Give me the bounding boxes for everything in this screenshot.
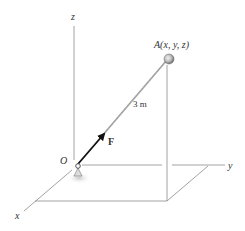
origin-label: O (60, 155, 67, 166)
force-arrow (78, 134, 104, 164)
x-axis-label: x (14, 210, 20, 221)
z-axis-label: z (70, 11, 75, 22)
floor-edge-right (167, 166, 208, 201)
ball-joint-A (164, 54, 174, 64)
length-label: 3 m (133, 99, 147, 109)
pin-support (74, 168, 82, 176)
diagram-canvas: z y x F A(x, y, z) 3 m O (0, 0, 245, 231)
y-axis-label: y (227, 160, 233, 171)
force-label: F (108, 136, 114, 147)
x-axis (24, 170, 72, 211)
diagram-svg: z y x F A(x, y, z) 3 m O (0, 0, 245, 231)
point-A-label: A(x, y, z) (153, 39, 190, 51)
pin-joint-O (76, 164, 81, 169)
